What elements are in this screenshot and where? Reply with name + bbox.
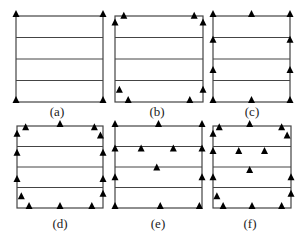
triangle-marker-icon (22, 123, 29, 130)
panel-b (112, 12, 207, 103)
triangle-marker-icon (14, 149, 21, 156)
caption-c: (c) (245, 104, 259, 120)
triangle-marker-icon (200, 86, 207, 93)
triangle-marker-icon (246, 120, 253, 127)
triangle-marker-icon (210, 130, 217, 137)
figure: (a) (b) (c) (d) (e) (f) (0, 0, 307, 242)
triangle-marker-icon (112, 173, 119, 180)
caption-d: (d) (52, 216, 67, 232)
panel-a (13, 10, 107, 103)
triangle-marker-icon (57, 120, 64, 127)
triangle-marker-icon (278, 202, 285, 209)
triangle-marker-icon (235, 147, 242, 154)
triangle-marker-icon (210, 96, 217, 103)
panel-d (14, 120, 107, 209)
triangle-marker-icon (18, 192, 25, 199)
triangle-marker-icon (249, 202, 256, 209)
triangle-marker-icon (138, 145, 145, 152)
triangle-marker-icon (155, 120, 162, 127)
triangle-marker-icon (210, 10, 217, 17)
caption-b: (b) (149, 104, 164, 120)
triangle-marker-icon (287, 10, 294, 17)
triangle-marker-icon (213, 192, 220, 199)
triangle-marker-icon (199, 120, 206, 127)
triangle-marker-icon (14, 130, 21, 137)
triangle-marker-icon (216, 123, 223, 130)
caption-a: (a) (50, 104, 64, 120)
panel-e (112, 120, 206, 209)
triangle-marker-icon (91, 123, 98, 130)
triangle-marker-icon (287, 36, 294, 43)
triangle-marker-icon (100, 96, 107, 103)
panel-c (210, 10, 294, 103)
triangle-marker-icon (248, 96, 255, 103)
triangle-marker-icon (210, 36, 217, 43)
triangle-marker-icon (26, 202, 33, 209)
triangle-marker-icon (100, 149, 107, 156)
triangle-marker-icon (248, 10, 255, 17)
triangle-marker-icon (288, 190, 295, 197)
triangle-marker-icon (100, 10, 107, 17)
triangle-marker-icon (112, 120, 119, 127)
triangle-marker-icon (112, 202, 119, 209)
triangle-marker-icon (199, 173, 206, 180)
triangle-marker-icon (88, 202, 95, 209)
triangle-marker-icon (220, 202, 227, 209)
triangle-marker-icon (278, 123, 285, 130)
triangle-marker-icon (157, 202, 164, 209)
triangle-marker-icon (13, 10, 20, 17)
triangle-marker-icon (116, 86, 123, 93)
triangle-marker-icon (100, 190, 107, 197)
triangle-marker-icon (199, 145, 206, 152)
triangle-marker-icon (125, 96, 132, 103)
triangle-marker-icon (210, 147, 217, 154)
triangle-marker-icon (112, 145, 119, 152)
triangle-marker-icon (200, 19, 207, 26)
triangle-marker-icon (170, 145, 177, 152)
triangle-marker-icon (261, 147, 268, 154)
panel-f (210, 120, 295, 209)
caption-e: (e) (151, 216, 165, 232)
triangle-marker-icon (284, 131, 291, 138)
triangle-marker-icon (288, 173, 295, 180)
triangle-marker-icon (120, 12, 127, 19)
triangle-marker-icon (57, 202, 64, 209)
triangle-marker-icon (210, 66, 217, 73)
triangle-marker-icon (210, 173, 217, 180)
triangle-marker-icon (112, 19, 119, 26)
triangle-marker-icon (287, 96, 294, 103)
triangle-marker-icon (191, 12, 198, 19)
triangle-marker-icon (287, 66, 294, 73)
triangle-marker-icon (100, 175, 107, 182)
panel-grid-svg (0, 0, 307, 242)
caption-f: (f) (244, 216, 257, 232)
triangle-marker-icon (186, 96, 193, 103)
triangle-marker-icon (14, 175, 21, 182)
triangle-marker-icon (13, 96, 20, 103)
